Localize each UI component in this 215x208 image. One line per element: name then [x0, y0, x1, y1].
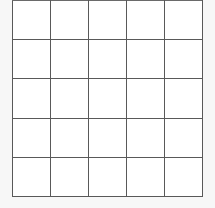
grid-cell-r2c4[interactable] [127, 40, 165, 79]
grid-cell-r4c3[interactable] [89, 118, 127, 157]
grid-cell-r5c3[interactable] [89, 157, 127, 196]
grid-cell-r4c2[interactable] [51, 118, 89, 157]
grid-cell-r1c5[interactable] [165, 1, 203, 40]
grid-cell-r1c3[interactable] [89, 1, 127, 40]
grid-cell-r5c5[interactable] [165, 157, 203, 196]
grid-cell-r3c3[interactable] [89, 79, 127, 118]
table-row [13, 40, 203, 79]
grid-cell-r5c1[interactable] [13, 157, 51, 196]
grid-cell-r1c1[interactable] [13, 1, 51, 40]
grid-cell-r2c1[interactable] [13, 40, 51, 79]
grid-cell-r5c4[interactable] [127, 157, 165, 196]
grid-body [13, 1, 203, 197]
grid-cell-r3c1[interactable] [13, 79, 51, 118]
grid-cell-r3c5[interactable] [165, 79, 203, 118]
figure-canvas [0, 0, 215, 208]
table-row [13, 118, 203, 157]
grid-cell-r1c2[interactable] [51, 1, 89, 40]
grid-cell-r2c3[interactable] [89, 40, 127, 79]
table-row [13, 79, 203, 118]
grid-cell-r2c2[interactable] [51, 40, 89, 79]
grid-cell-r4c1[interactable] [13, 118, 51, 157]
grid-table [12, 0, 203, 197]
grid-cell-r3c2[interactable] [51, 79, 89, 118]
grid-cell-r4c4[interactable] [127, 118, 165, 157]
grid-container [12, 0, 203, 197]
table-row [13, 1, 203, 40]
grid-cell-r2c5[interactable] [165, 40, 203, 79]
grid-cell-r4c5[interactable] [165, 118, 203, 157]
grid-cell-r1c4[interactable] [127, 1, 165, 40]
grid-cell-r3c4[interactable] [127, 79, 165, 118]
grid-cell-r5c2[interactable] [51, 157, 89, 196]
table-row [13, 157, 203, 196]
